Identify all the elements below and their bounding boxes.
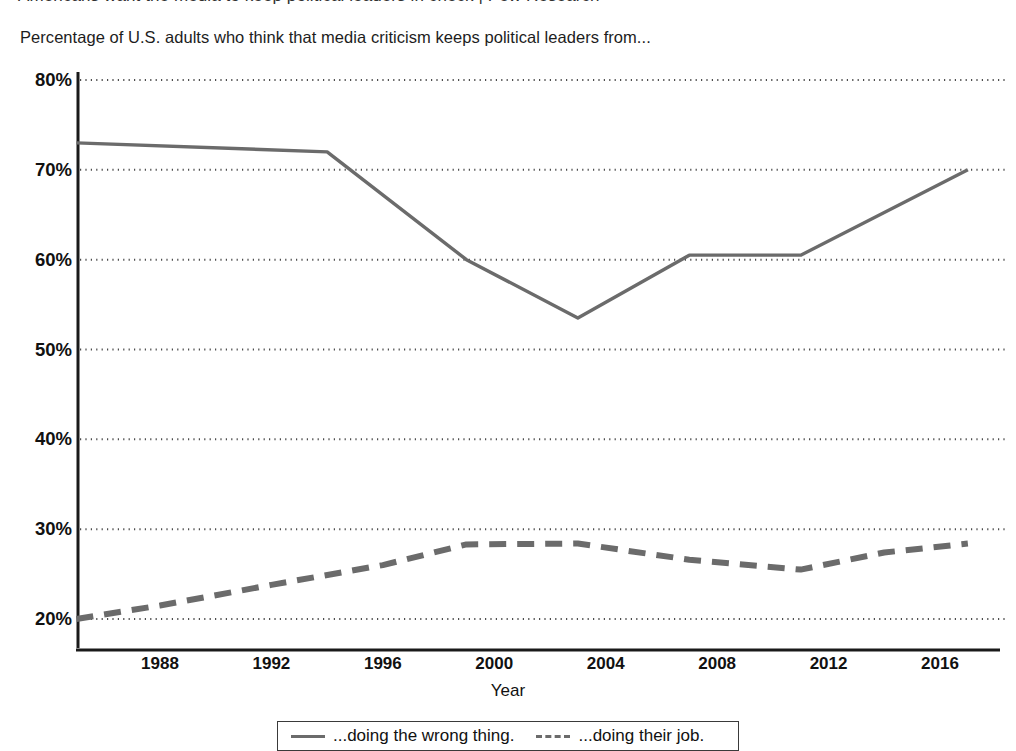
data-series-group — [76, 143, 967, 619]
legend-item-wrong-thing: ...doing the wrong thing. — [291, 726, 514, 746]
x-axis-tick-label: 1992 — [253, 654, 291, 674]
y-axis-tick-label: 60% — [35, 249, 72, 271]
y-axis-tick-label: 80% — [35, 69, 72, 91]
y-axis-tick-label: 30% — [35, 518, 72, 540]
x-axis-tick-label: 2000 — [475, 654, 513, 674]
x-axis-tick-label: 2012 — [810, 654, 848, 674]
x-axis-tick-label: 2004 — [587, 654, 625, 674]
x-axis-tick-label: 1988 — [141, 654, 179, 674]
axes-group — [76, 72, 1000, 650]
legend-item-their-job: ...doing their job. — [536, 726, 704, 746]
x-axis-tick-label: 2016 — [921, 654, 959, 674]
y-axis-tick-label: 20% — [35, 608, 72, 630]
legend-item-label: ...doing the wrong thing. — [333, 726, 514, 746]
y-axis-tick-label: 40% — [35, 428, 72, 450]
x-axis-tick-label: 2008 — [698, 654, 736, 674]
x-axis-tick-label: 1996 — [364, 654, 402, 674]
legend-dashed-line-icon — [536, 735, 570, 738]
series-line-2 — [76, 544, 967, 619]
y-axis-tick-label: 70% — [35, 159, 72, 181]
gridlines-group — [80, 80, 1008, 619]
y-axis-tick-label: 50% — [35, 339, 72, 361]
legend-solid-line-icon — [291, 735, 325, 738]
legend-item-label: ...doing their job. — [578, 726, 704, 746]
x-axis-title: Year — [0, 681, 1016, 701]
chart-legend: ...doing the wrong thing. ...doing their… — [277, 721, 739, 751]
